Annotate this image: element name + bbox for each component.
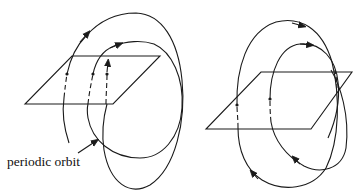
- trajectory-outer-right-upper: [237, 21, 337, 168]
- crossing-dot: [235, 103, 238, 106]
- arrow-outer-right-bottom: [252, 172, 258, 179]
- poincare-plane-right: [206, 72, 352, 129]
- trajectory-outer-left-dashed: [64, 74, 67, 98]
- trajectory-outer-left-loop: [86, 13, 183, 189]
- label-pointer-arrow: [78, 141, 96, 153]
- arrow-middle-left: [110, 44, 120, 48]
- crossing-dot: [91, 72, 94, 75]
- trajectory-outer-left: [63, 98, 69, 143]
- crossing-dot: [65, 72, 68, 75]
- poincare-plane-left: [25, 56, 160, 104]
- trajectory-outer-right-lower: [238, 128, 326, 187]
- trajectory-inner-right-upper: [270, 44, 339, 138]
- arrow-inner-left: [107, 62, 108, 72]
- trajectory-middle-left-upper: [93, 46, 114, 74]
- arrow-outer-left: [80, 33, 88, 42]
- arrow-inner-right-bottom: [294, 158, 300, 164]
- trajectory-inner-left-dashed: [106, 74, 107, 104]
- trajectory-inner-right-dashed: [270, 99, 271, 122]
- trajectory-middle-left-loop: [87, 42, 182, 158]
- trajectory-outer-right-dashed: [237, 105, 238, 128]
- poincare-section-figure: periodic orbit: [0, 0, 364, 196]
- trajectory-middle-left-dashed: [88, 74, 93, 104]
- trajectory-inner-right-loop: [271, 70, 347, 170]
- trajectory-outer-left-upper: [67, 36, 86, 74]
- crossing-dot: [268, 97, 271, 100]
- right-panel: [206, 21, 352, 188]
- crossing-dot: [105, 72, 108, 75]
- periodic-orbit-label: periodic orbit: [7, 155, 80, 169]
